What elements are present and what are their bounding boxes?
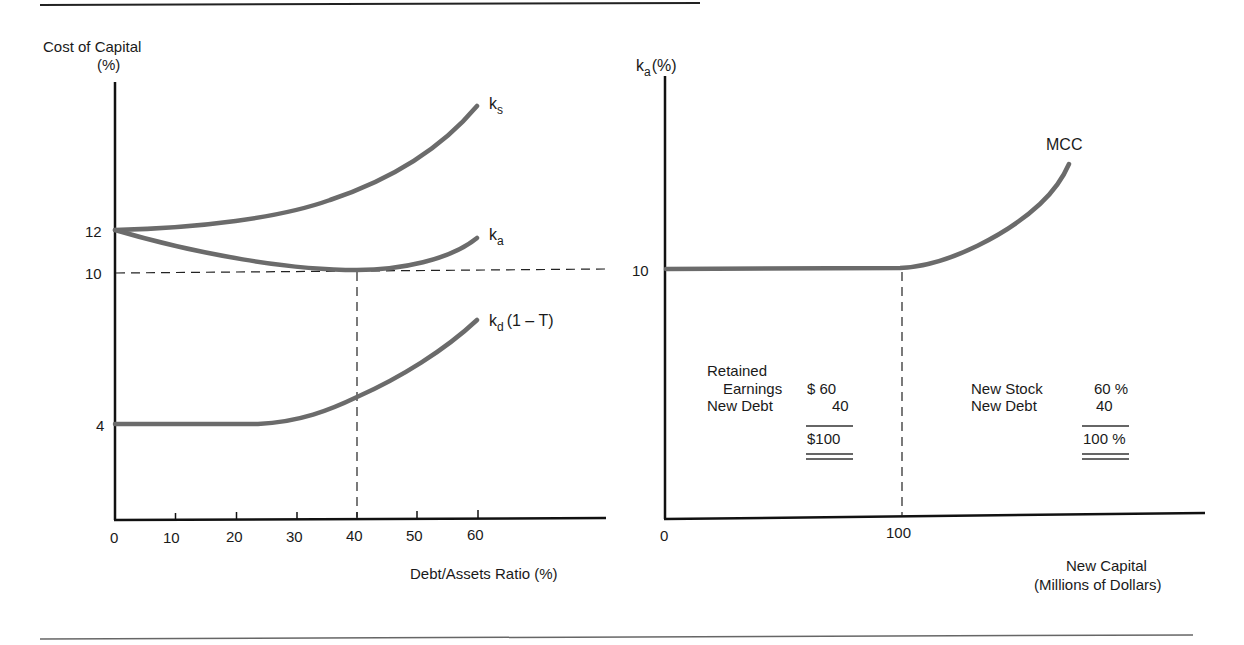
new-debt-value-right: 40 xyxy=(1096,397,1113,414)
new-stock-value: 60 % xyxy=(1094,380,1128,397)
figure: Cost of Capital (%) 0 10 20 30 40 50 60 … xyxy=(0,0,1244,645)
x-tick-40: 40 xyxy=(346,527,363,544)
left-x-tick-labels: 0 10 20 30 40 50 60 xyxy=(110,526,484,546)
right-x-axis xyxy=(664,513,1205,519)
right-x-axis-title-line2: (Millions of Dollars) xyxy=(1034,576,1162,593)
financing-table-left: Retained Earnings $ 60 New Debt 40 $100 xyxy=(707,362,853,459)
x-tick-10: 10 xyxy=(163,529,180,546)
total-value: $100 xyxy=(807,430,840,447)
right-y-tick-10: 10 xyxy=(632,262,649,279)
right-x-tick-100: 100 xyxy=(886,524,911,541)
x-tick-20: 20 xyxy=(226,528,243,545)
y-tick-4: 4 xyxy=(96,417,104,434)
ks-curve xyxy=(115,106,477,230)
earnings-label: Earnings xyxy=(723,380,782,397)
right-y-axis-title: ka(%) xyxy=(636,57,677,79)
new-debt-label-right: New Debt xyxy=(971,397,1038,414)
left-y-axis-unit: (%) xyxy=(97,56,120,73)
x-tick-30: 30 xyxy=(286,528,303,545)
financing-table-right: New Stock 60 % New Debt 40 100 % xyxy=(971,380,1129,459)
mcc-label: MCC xyxy=(1046,136,1082,153)
x-tick-50: 50 xyxy=(406,527,423,544)
retained-label: Retained xyxy=(707,362,767,379)
mcc-curve xyxy=(666,164,1069,269)
y-tick-10: 10 xyxy=(85,265,102,282)
ks-label: ks xyxy=(489,95,503,117)
ka-curve xyxy=(115,230,477,270)
kd-curve xyxy=(115,320,477,424)
ka-label: ka xyxy=(489,226,504,248)
kd-label: kd(1 – T) xyxy=(489,312,554,334)
left-x-axis-title: Debt/Assets Ratio (%) xyxy=(410,565,558,582)
right-x-tick-0: 0 xyxy=(660,527,668,544)
total-value-right: 100 % xyxy=(1083,430,1126,447)
top-rule xyxy=(40,3,700,5)
x-tick-0: 0 xyxy=(110,529,118,546)
x-tick-60: 60 xyxy=(467,526,484,543)
new-debt-label: New Debt xyxy=(707,397,774,414)
earnings-value: $ 60 xyxy=(807,380,836,397)
right-chart: ka(%) 10 0 100 New Capital (Millions of … xyxy=(632,57,1205,593)
new-stock-label: New Stock xyxy=(971,380,1043,397)
left-chart: Cost of Capital (%) 0 10 20 30 40 50 60 … xyxy=(43,38,606,582)
right-x-axis-title-line1: New Capital xyxy=(1066,557,1147,574)
new-debt-value: 40 xyxy=(832,397,849,414)
bottom-rule xyxy=(40,635,1193,639)
y-tick-12: 12 xyxy=(85,223,102,240)
left-x-axis xyxy=(114,518,606,520)
left-y-axis-title: Cost of Capital xyxy=(43,38,141,55)
